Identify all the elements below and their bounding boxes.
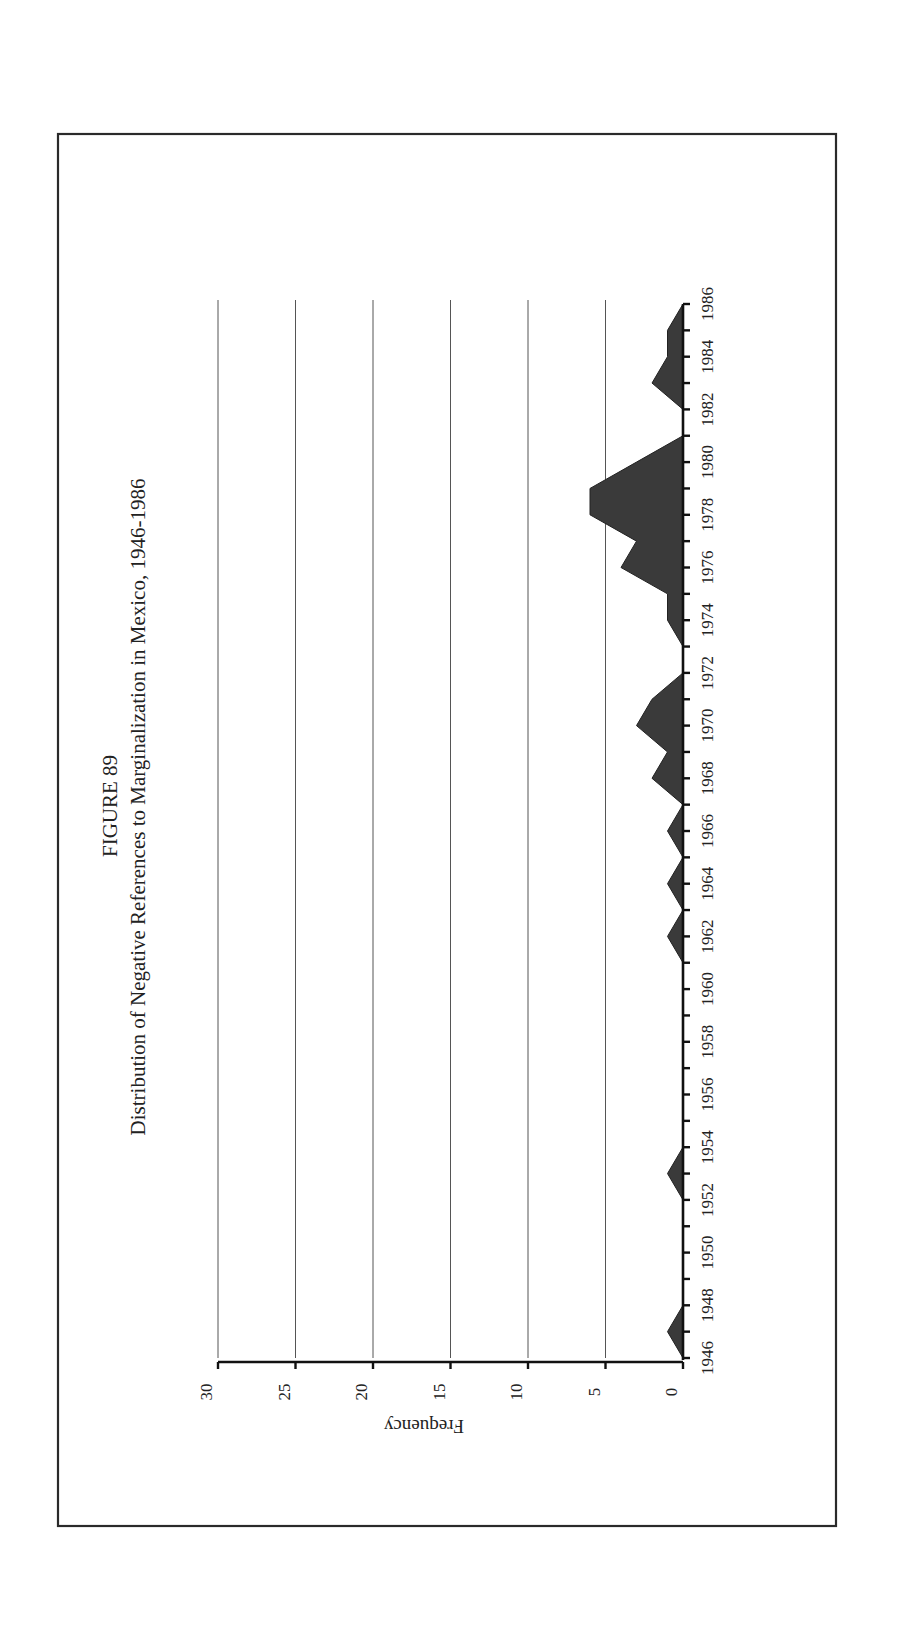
year-tick-label: 1966 <box>698 814 717 848</box>
year-tick-label: 1968 <box>698 761 717 795</box>
year-tick-label: 1954 <box>698 1130 717 1165</box>
frequency-tick-labels: 051015202530 <box>197 1384 681 1401</box>
figure-chart: FIGURE 89 Distribution of Negative Refer… <box>0 0 906 1644</box>
frequency-tick-label: 30 <box>197 1384 216 1401</box>
year-tick-label: 1976 <box>698 551 717 585</box>
figure-frame <box>58 134 836 1526</box>
axes <box>218 304 690 1369</box>
gridlines <box>218 300 606 1358</box>
year-tick-label: 1958 <box>698 1025 717 1059</box>
year-tick-label: 1974 <box>698 603 717 638</box>
year-tick-labels: 1946194819501952195419561958196019621964… <box>698 287 717 1375</box>
figure-title: Distribution of Negative References to M… <box>126 479 150 1136</box>
frequency-area <box>590 304 683 1358</box>
y-axis-label: Frequency <box>383 1416 464 1437</box>
year-tick-label: 1986 <box>698 287 717 321</box>
year-tick-label: 1964 <box>698 866 717 901</box>
frequency-tick-label: 10 <box>507 1384 526 1401</box>
year-tick-label: 1946 <box>698 1341 717 1375</box>
frequency-tick-label: 25 <box>275 1384 294 1401</box>
frequency-tick-label: 5 <box>585 1388 604 1397</box>
year-tick-label: 1972 <box>698 656 717 690</box>
area-series <box>590 304 683 1358</box>
year-tick-label: 1950 <box>698 1236 717 1270</box>
frequency-tick-label: 0 <box>662 1388 681 1397</box>
year-tick-label: 1948 <box>698 1288 717 1322</box>
year-tick-label: 1982 <box>698 392 717 426</box>
year-tick-label: 1952 <box>698 1183 717 1217</box>
year-tick-label: 1960 <box>698 972 717 1006</box>
year-tick-label: 1956 <box>698 1078 717 1112</box>
year-tick-label: 1962 <box>698 919 717 953</box>
frequency-tick-label: 20 <box>352 1384 371 1401</box>
year-tick-label: 1980 <box>698 445 717 479</box>
year-tick-label: 1970 <box>698 709 717 743</box>
year-tick-label: 1978 <box>698 498 717 532</box>
frequency-tick-label: 15 <box>430 1384 449 1401</box>
year-tick-label: 1984 <box>698 339 717 374</box>
figure-label: FIGURE 89 <box>98 755 122 857</box>
